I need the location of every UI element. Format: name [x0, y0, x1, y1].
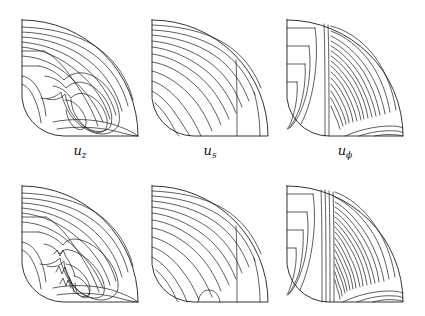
- panel-us-bottom: [150, 184, 270, 305]
- caption-uz: uz: [20, 143, 140, 160]
- caption-uphi-base: u: [338, 143, 346, 158]
- panel-uz-bottom: [20, 184, 140, 305]
- panel-uphi-bottom: [285, 184, 405, 305]
- caption-us-base: u: [204, 143, 212, 158]
- panel-us-top: [150, 18, 270, 139]
- caption-us-subscript: s: [212, 150, 217, 160]
- panel-uz-top: [20, 18, 140, 139]
- caption-uphi: uϕ: [285, 143, 405, 160]
- caption-us: us: [150, 143, 270, 160]
- caption-uz-base: u: [73, 143, 81, 158]
- caption-uphi-subscript: ϕ: [346, 150, 352, 160]
- panel-uphi-top: [285, 18, 405, 139]
- caption-uz-subscript: z: [82, 150, 87, 160]
- contour-figure: uz us uϕ: [0, 0, 425, 316]
